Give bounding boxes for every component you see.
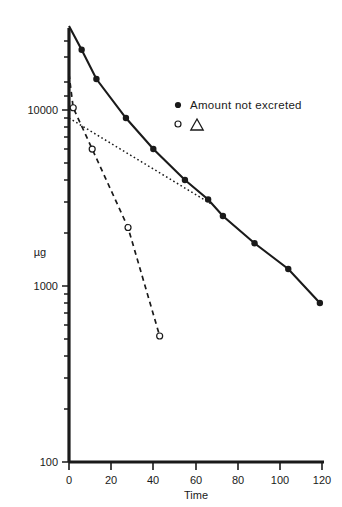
data-point-filled xyxy=(285,266,291,272)
data-point-filled xyxy=(123,115,129,121)
data-point-filled xyxy=(93,76,99,82)
data-point-filled xyxy=(150,146,156,152)
delta-dashed-line xyxy=(69,74,160,336)
y-tick-label-10000: 10000 xyxy=(27,104,58,116)
y-tick-label-1000: 1000 xyxy=(34,280,58,292)
data-point-open xyxy=(89,146,95,152)
series-delta xyxy=(69,74,163,339)
x-tick-label-120: 120 xyxy=(313,474,331,486)
chart-svg: 10000 1000 100 µg 0 20 40 60 80 100 120 … xyxy=(0,0,342,507)
data-point-filled xyxy=(317,300,323,306)
data-point-filled xyxy=(251,240,257,246)
x-tick-label-40: 40 xyxy=(147,474,159,486)
data-point-filled xyxy=(220,213,226,219)
x-tick-label-80: 80 xyxy=(232,474,244,486)
data-point-open xyxy=(125,224,131,230)
data-point-open xyxy=(157,333,163,339)
legend-triangle-icon xyxy=(191,119,203,130)
series-residual-line xyxy=(69,118,212,205)
y-tick-label-100: 100 xyxy=(40,456,58,468)
legend-filled-circle-icon xyxy=(175,102,181,108)
amount-markers xyxy=(78,47,323,307)
chart-legend: Amount not excreted xyxy=(175,99,302,130)
x-tick-label-0: 0 xyxy=(66,474,72,486)
y-axis-title: µg xyxy=(34,246,46,258)
delta-markers xyxy=(70,105,162,339)
amount-solid-line xyxy=(69,26,320,303)
legend-open-circle-icon xyxy=(175,121,181,127)
data-point-open xyxy=(70,105,76,111)
residual-dotted-line xyxy=(69,118,212,205)
data-point-filled xyxy=(78,47,84,53)
x-axis-title: Time xyxy=(184,489,208,501)
x-tick-label-60: 60 xyxy=(190,474,202,486)
legend-label-amount-not-excreted: Amount not excreted xyxy=(190,99,302,111)
x-tick-label-20: 20 xyxy=(105,474,117,486)
data-point-filled xyxy=(182,177,188,183)
chart-figure: 10000 1000 100 µg 0 20 40 60 80 100 120 … xyxy=(0,0,342,507)
x-tick-label-100: 100 xyxy=(271,474,289,486)
series-amount-not-excreted xyxy=(69,26,323,306)
data-point-filled xyxy=(205,196,211,202)
